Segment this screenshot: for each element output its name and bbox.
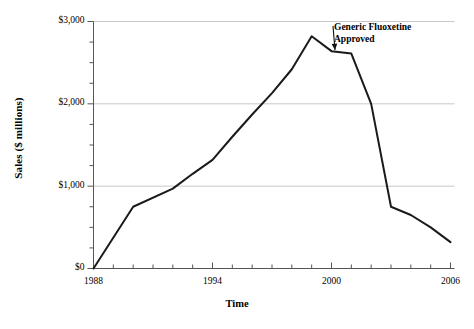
x-tick-label-1994: 1994 bbox=[183, 276, 243, 286]
x-tick-label-2000: 2000 bbox=[302, 276, 362, 286]
y-tick-label-0: $0 bbox=[28, 262, 85, 272]
x-tick-label-2006: 2006 bbox=[421, 276, 474, 286]
y-tick-label-1000: $1,000 bbox=[28, 180, 85, 190]
line-chart-figure: Sales ($ millions) Time Generic Fluoxeti… bbox=[0, 0, 474, 329]
y-tick-label-2000: $2,000 bbox=[28, 97, 85, 107]
annotation-arrow-head bbox=[332, 44, 338, 51]
y-tick-label-3000: $3,000 bbox=[28, 15, 85, 25]
data-series-sales bbox=[94, 36, 451, 268]
x-tick-label-1988: 1988 bbox=[64, 276, 124, 286]
